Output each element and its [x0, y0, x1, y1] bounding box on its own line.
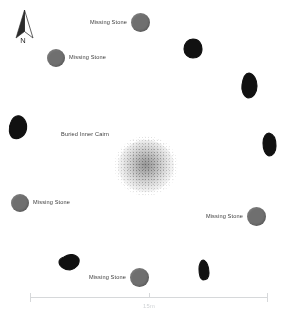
surviving-stone: [183, 38, 203, 59]
buried-inner-cairn: [118, 140, 174, 192]
scale-bar: [30, 293, 268, 303]
missing-stone-marker: [47, 49, 65, 67]
scale-tick-end: [267, 293, 268, 302]
surviving-stone: [58, 252, 80, 271]
site-plan: N Missing StoneMissing StoneMissing Ston…: [0, 0, 293, 326]
missing-stone-marker: [131, 13, 150, 32]
cairn-blob: [118, 140, 174, 192]
missing-stone-marker: [247, 207, 266, 226]
scale-label: 15m: [30, 303, 268, 309]
missing-stone-label: Missing Stone: [0, 214, 243, 220]
surviving-stone: [7, 114, 29, 140]
cairn-label: Buried Inner Cairn: [61, 131, 109, 137]
missing-stone-label: Missing Stone: [0, 20, 127, 26]
surviving-stone: [240, 72, 258, 99]
missing-stone-marker: [130, 268, 149, 287]
missing-stone-label: Missing Stone: [0, 275, 126, 281]
missing-stone-label: Missing Stone: [69, 55, 106, 61]
scale-tick-start: [30, 293, 31, 302]
cairn-stipple: [114, 136, 178, 196]
north-arrow-icon: [10, 8, 40, 52]
scale-tick-mid: [149, 293, 150, 298]
north-label: N: [10, 36, 36, 45]
surviving-stone: [262, 132, 277, 157]
missing-stone-label: Missing Stone: [33, 200, 70, 206]
missing-stone-marker: [11, 194, 29, 212]
surviving-stone: [196, 259, 210, 281]
